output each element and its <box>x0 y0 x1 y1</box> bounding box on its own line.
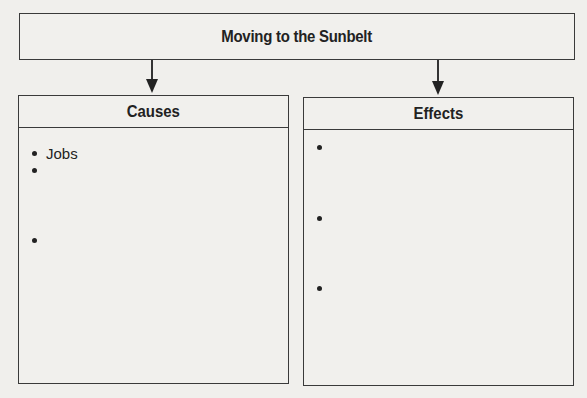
effects-heading: Effects <box>414 104 464 124</box>
bullet-icon <box>32 168 37 173</box>
effect-item-1[interactable] <box>317 145 331 150</box>
cause-item-1[interactable]: Jobs <box>32 145 78 162</box>
title-box: Moving to the Sunbelt <box>19 13 575 60</box>
bullet-icon <box>317 145 322 150</box>
causes-box: Causes Jobs <box>18 95 289 384</box>
arrow-down-icon <box>432 81 444 95</box>
effect-item-2[interactable] <box>317 216 331 221</box>
arrow-down-icon <box>146 79 158 93</box>
causes-heading: Causes <box>127 102 180 122</box>
cause-item-2[interactable] <box>32 168 46 173</box>
cause-item-3[interactable] <box>32 238 46 243</box>
bullet-icon <box>32 238 37 243</box>
cause-item-text: Jobs <box>46 145 78 162</box>
bullet-icon <box>317 286 322 291</box>
bullet-icon <box>317 216 322 221</box>
effect-item-3[interactable] <box>317 286 331 291</box>
effects-box: Effects <box>303 97 574 386</box>
bullet-icon <box>32 151 37 156</box>
causes-header: Causes <box>19 96 288 128</box>
diagram-title: Moving to the Sunbelt <box>222 27 373 47</box>
effects-header: Effects <box>304 98 573 130</box>
